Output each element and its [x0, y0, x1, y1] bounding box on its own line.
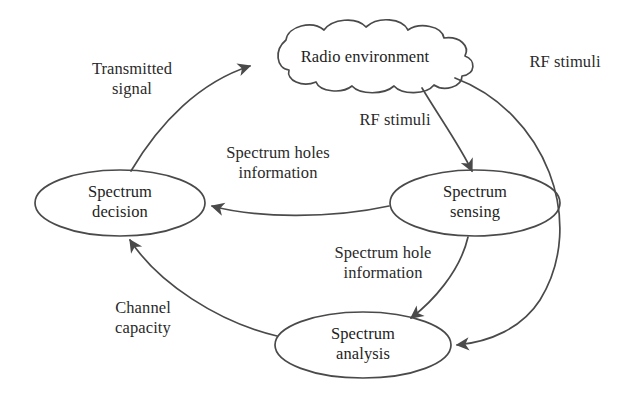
radio-environment-cloud-shape — [278, 20, 473, 93]
spectrum-decision-shape — [35, 170, 205, 236]
diagram-canvas: Radio environment Spectrum decision Spec… — [0, 0, 630, 400]
spectrum-sensing-shape — [390, 170, 560, 236]
spectrum-analysis-shape — [275, 312, 451, 378]
edge-spectrum-holes-information — [212, 206, 389, 215]
edge-rf-stimuli-inner — [422, 88, 472, 171]
edge-channel-capacity — [130, 240, 277, 336]
edge-rf-stimuli-outer — [455, 78, 560, 345]
diagram-graphics — [0, 0, 630, 400]
edge-spectrum-hole-information — [411, 237, 468, 318]
edge-transmitted-signal — [131, 66, 250, 171]
